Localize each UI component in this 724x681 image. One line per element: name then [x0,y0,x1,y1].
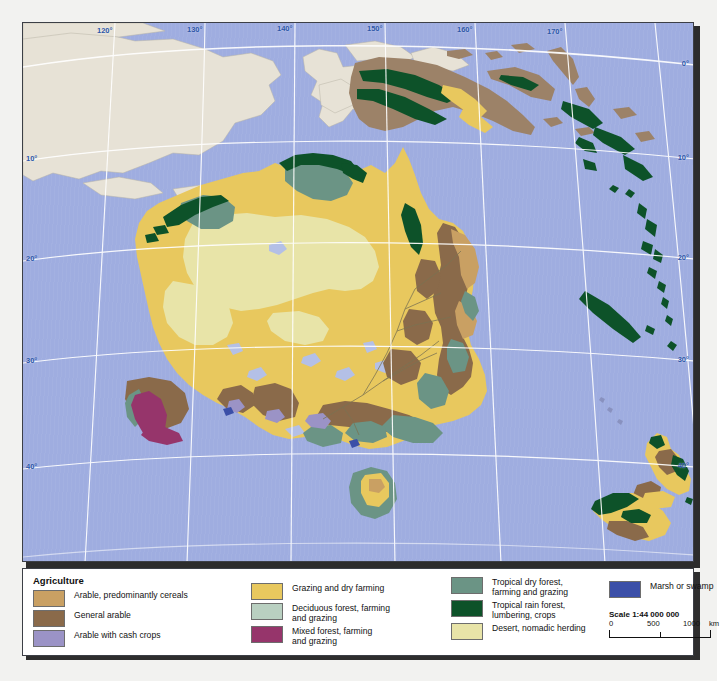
legend-swatch-marsh-swamp [609,581,641,598]
legend-label: Marsh or swamp [650,581,714,592]
map-legend: Agriculture Arable, predominantly cereal… [22,568,694,656]
scale-tick-labels: 0 500 1000 km [609,619,713,629]
new-zealand [591,433,693,541]
solomon-1 [561,101,603,129]
scale-label: Scale 1:44 000 000 [609,610,713,619]
vanuatu-3 [641,241,653,255]
lon-label-160: 160° [457,25,473,34]
png-islet-7 [635,131,655,142]
legend-swatch-tropical-dry-forest [451,577,483,594]
legend-label: General arable [74,610,131,621]
lon-label-170: 170° [547,27,563,36]
legend-column-4: Marsh or swamp [609,581,724,601]
legend-column-3: Tropical dry forest, farming and grazing… [451,577,621,643]
legend-item[interactable]: Grazing and dry farming [251,583,431,600]
pacific-dot-3 [667,341,677,351]
legend-label: Arable, predominantly cereals [74,590,188,601]
map-vector-layer [23,23,694,562]
legend-title: Agriculture [33,575,84,586]
lon-label-150: 150° [367,24,383,33]
lat-label-left-10: 10° [26,154,37,163]
legend-swatch-desert-nomadic [451,623,483,640]
lat-label-right-10: 10° [678,153,689,162]
vanuatu-8 [665,315,673,326]
legend-item[interactable]: Mixed forest, farming and grazing [251,626,431,646]
legend-item[interactable]: Arable, predominantly cereals [33,590,238,607]
scale-tick-500: 500 [647,619,660,628]
lon-label-140: 140° [277,24,293,33]
legend-label: Deciduous forest, farming and grazing [292,603,390,623]
legend-item[interactable]: Marsh or swamp [609,581,724,598]
pacific-dot-2 [609,185,619,193]
scale-tick-0: 0 [609,619,613,628]
loyalty-isl [645,325,655,335]
legend-item[interactable]: Desert, nomadic herding [451,623,621,640]
lat-label-right-40: 40° [678,461,689,470]
solomon-3 [623,155,653,181]
legend-swatch-general-arable [33,610,65,627]
lat-label-left-30: 30° [26,356,37,365]
sw-mixed-forest-2 [141,427,183,445]
lon-label-120: 120° [97,26,113,35]
legend-label: Desert, nomadic herding [492,623,586,634]
legend-label: Grazing and dry farming [292,583,384,594]
vanuatu-5 [647,267,657,279]
lat-label-right-20: 20° [678,253,689,262]
legend-label: Tropical rain forest, lumbering, crops [492,600,565,620]
legend-item[interactable]: Tropical dry forest, farming and grazing [451,577,621,597]
legend-swatch-tropical-rain-forest [451,600,483,617]
vanuatu-1 [637,203,647,219]
legend-label: Tropical dry forest, farming and grazing [492,577,568,597]
png-islet-2 [485,51,503,60]
nz-islet [685,497,693,505]
scale-unit-km: km [709,619,719,628]
map-canvas[interactable]: 120° 130° 140° 150° 160° 170° 10° 20° 30… [22,22,694,562]
legend-column-1: Arable, predominantly cereals General ar… [33,590,238,650]
legend-item[interactable]: Tropical rain forest, lumbering, crops [451,600,621,620]
scale-bar-graphic [609,630,711,638]
lon-label-130: 130° [187,25,203,34]
legend-swatch-arable-cash-crops [33,630,65,647]
png-islet-6 [613,107,637,119]
legend-item[interactable]: Deciduous forest, farming and grazing [251,603,431,623]
png-islet-4 [543,117,563,127]
tasmania [349,467,397,519]
bougainville [575,87,595,107]
lat-label-right-0: 0° [682,59,689,68]
lat-label-left-20: 20° [26,254,37,263]
legend-item[interactable]: General arable [33,610,238,627]
legend-swatch-mixed-forest [251,626,283,643]
lat-label-right-30: 30° [678,355,689,364]
legend-column-2: Grazing and dry farming Deciduous forest… [251,583,431,649]
small-ocean-islets [599,397,623,425]
pacific-islands [561,101,677,351]
solomon-5 [583,159,597,171]
scale-bar-block: Scale 1:44 000 000 0 500 1000 km [609,610,713,638]
vanuatu-6 [657,281,666,293]
pacific-dot-1 [625,189,635,198]
legend-label: Arable with cash crops [74,630,160,641]
legend-swatch-arable-cereals [33,590,65,607]
legend-swatch-grazing-dry-farming [251,583,283,600]
legend-swatch-deciduous-forest [251,603,283,620]
scale-tick-1000: 1000 [683,619,700,628]
vanuatu-7 [661,297,669,309]
legend-item[interactable]: Arable with cash crops [33,630,238,647]
lat-label-left-40: 40° [26,462,37,471]
vanuatu-2 [645,219,657,237]
legend-label: Mixed forest, farming and grazing [292,626,372,646]
